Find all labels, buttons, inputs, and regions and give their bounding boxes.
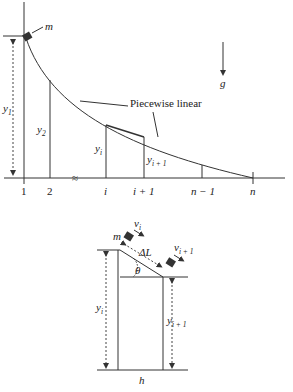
velocity-i1-label: vi + 1 — [174, 241, 194, 256]
curve-leader-2 — [153, 112, 158, 137]
y1-label: y1 — [2, 102, 12, 117]
mass-label-bottom: m — [113, 230, 121, 242]
yi1-height-label: yi + 1 — [166, 314, 187, 329]
yi1-label: yi + 1 — [146, 153, 167, 168]
mass-label: m — [45, 20, 53, 32]
tick-label-i1: i + 1 — [133, 185, 154, 197]
mass-block-i1-icon — [165, 257, 175, 267]
top-diagram: m g Piecewise linear y1 y2 yi yi + 1 1 2… — [2, 2, 285, 197]
curve-label: Piecewise linear — [130, 97, 202, 109]
yi-height-label: yi — [95, 301, 103, 316]
mass-leader — [32, 27, 43, 33]
mass-block-i-icon — [123, 231, 133, 241]
tick-label-1: 1 — [21, 185, 27, 197]
tick-label-2: 2 — [47, 185, 53, 197]
delta-l-label: ΔL — [138, 246, 152, 258]
tick-label-n: n — [250, 185, 256, 197]
gravity-label: g — [220, 77, 226, 89]
axis-break-mark: ≈ — [72, 172, 78, 184]
brachistochrone-diagram: m g Piecewise linear y1 y2 yi yi + 1 1 2… — [0, 0, 293, 392]
curve-leader-1 — [80, 101, 128, 106]
y2-label: y2 — [36, 123, 46, 138]
yi-label: yi — [94, 142, 102, 157]
bottom-diagram: ΔL m vi vi + 1 θ yi yi + 1 h — [95, 217, 194, 386]
tick-label-i: i — [104, 185, 107, 197]
tick-label-n1: n − 1 — [191, 185, 215, 197]
angle-label: θ — [135, 264, 141, 276]
piecewise-segment — [106, 125, 144, 137]
width-label: h — [139, 374, 145, 386]
velocity-i-label: vi — [134, 217, 141, 232]
